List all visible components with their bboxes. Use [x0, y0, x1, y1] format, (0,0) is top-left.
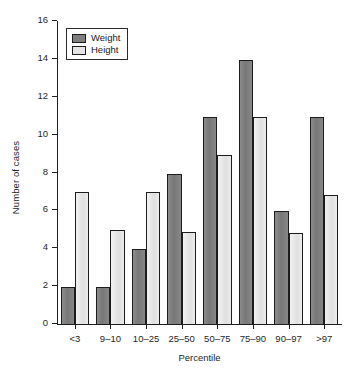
- y-axis-tick-label: 6: [43, 203, 48, 214]
- x-axis-tick-label: >97: [316, 333, 332, 344]
- bar-height: [182, 232, 196, 325]
- legend-item-weight: Weight: [72, 33, 120, 43]
- bar-weight: [310, 117, 324, 325]
- bar-height: [289, 233, 303, 325]
- y-axis-title: Number of cases: [10, 98, 21, 258]
- y-axis-tick-label: 8: [43, 166, 48, 177]
- legend-swatch-height-icon: [72, 46, 86, 55]
- x-axis-tick-label: 9–10: [100, 333, 121, 344]
- bar-chart-figure: Number of cases <39–1010–2525–5050–7575–…: [0, 0, 349, 374]
- y-axis-tick-label: 4: [43, 241, 48, 252]
- y-axis-tick-label: 14: [37, 52, 48, 63]
- y-axis-tick-label: 12: [37, 90, 48, 101]
- bar-height: [253, 117, 267, 325]
- y-axis-tick-label: 16: [37, 14, 48, 25]
- bar-height: [217, 155, 231, 325]
- bar-height: [75, 192, 89, 325]
- legend-label-height: Height: [91, 45, 118, 55]
- bar-weight: [132, 249, 146, 325]
- bar-weight: [96, 287, 110, 325]
- legend-item-height: Height: [72, 45, 120, 55]
- x-axis-tick-label: 50–75: [204, 333, 230, 344]
- bar-weight: [203, 117, 217, 325]
- bar-weight: [239, 60, 253, 325]
- x-axis-tick-label: <3: [69, 333, 80, 344]
- bar-height: [146, 192, 160, 325]
- chart-legend: Weight Height: [66, 28, 128, 60]
- x-axis-tick-label: 90–97: [275, 333, 301, 344]
- x-axis-tick-label: 75–90: [240, 333, 266, 344]
- bar-weight: [274, 211, 288, 325]
- y-axis-tick-label: 0: [43, 317, 48, 328]
- bar-weight: [61, 287, 75, 325]
- x-axis-tick-label: 10–25: [133, 333, 159, 344]
- legend-swatch-weight-icon: [72, 34, 86, 43]
- y-axis-tick-label: 10: [37, 128, 48, 139]
- bar-height: [110, 230, 124, 325]
- bar-height: [324, 195, 338, 325]
- x-axis-title: Percentile: [57, 352, 342, 363]
- x-axis-tick-label: 25–50: [168, 333, 194, 344]
- bars-container: [57, 21, 342, 325]
- legend-label-weight: Weight: [91, 33, 120, 43]
- bar-weight: [167, 174, 181, 326]
- y-axis-tick-label: 2: [43, 279, 48, 290]
